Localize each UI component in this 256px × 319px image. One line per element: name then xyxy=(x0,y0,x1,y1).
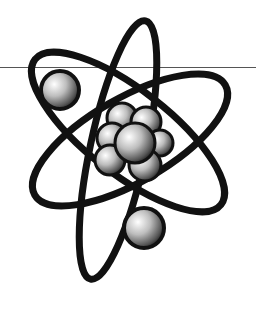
nucleus xyxy=(95,103,173,181)
electron-bottom xyxy=(124,208,164,248)
electron-top-left xyxy=(41,71,79,109)
atom-illustration xyxy=(0,0,256,319)
